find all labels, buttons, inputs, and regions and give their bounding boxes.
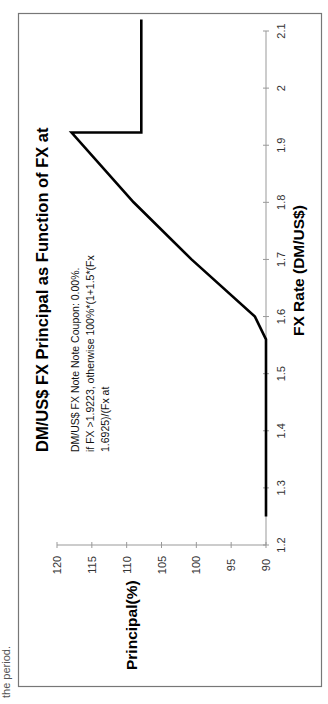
x-tick-label: 1.6 bbox=[275, 309, 287, 324]
chart-subtitle-line-3: 1.6925)/(Fx at bbox=[99, 387, 111, 452]
chart: the period. DM/US$ FX Principal as Funct… bbox=[0, 0, 328, 704]
x-tick-label: 1.4 bbox=[275, 423, 287, 438]
y-tick-label: 120 bbox=[51, 556, 63, 574]
x-tick-label: 1.3 bbox=[275, 480, 287, 495]
x-tick-label: 1.7 bbox=[275, 252, 287, 267]
y-tick-label: 95 bbox=[225, 559, 237, 571]
y-axis-label: Principal(%) bbox=[123, 580, 140, 670]
x-tick-label: 1.8 bbox=[275, 195, 287, 210]
x-tick-label: 1.5 bbox=[275, 366, 287, 381]
chart-frame bbox=[19, 14, 322, 687]
x-axis-label: FX Rate (DM/US$) bbox=[290, 205, 307, 336]
y-tick-label: 90 bbox=[260, 559, 272, 571]
caption-fragment: the period. bbox=[0, 646, 12, 698]
x-tick-label: 2 bbox=[275, 85, 287, 91]
chart-title: DM/US$ FX Principal as Function of FX at bbox=[33, 127, 51, 452]
x-tick-label: 1.2 bbox=[275, 537, 287, 552]
y-tick-label: 105 bbox=[156, 556, 168, 574]
y-tick-label: 110 bbox=[121, 556, 133, 574]
y-tick-label: 100 bbox=[190, 556, 202, 574]
x-tick-label: 1.9 bbox=[275, 138, 287, 153]
chart-subtitle-line-1: DM/US$ FX Note Note Coupon: 0.00%. bbox=[69, 268, 81, 452]
x-tick-label: 2.1 bbox=[275, 23, 287, 38]
y-tick-label: 115 bbox=[86, 556, 98, 574]
chart-subtitle-line-2: if FX >1.9223, otherwise 100%*(1+1.5*(Fx bbox=[84, 255, 96, 452]
